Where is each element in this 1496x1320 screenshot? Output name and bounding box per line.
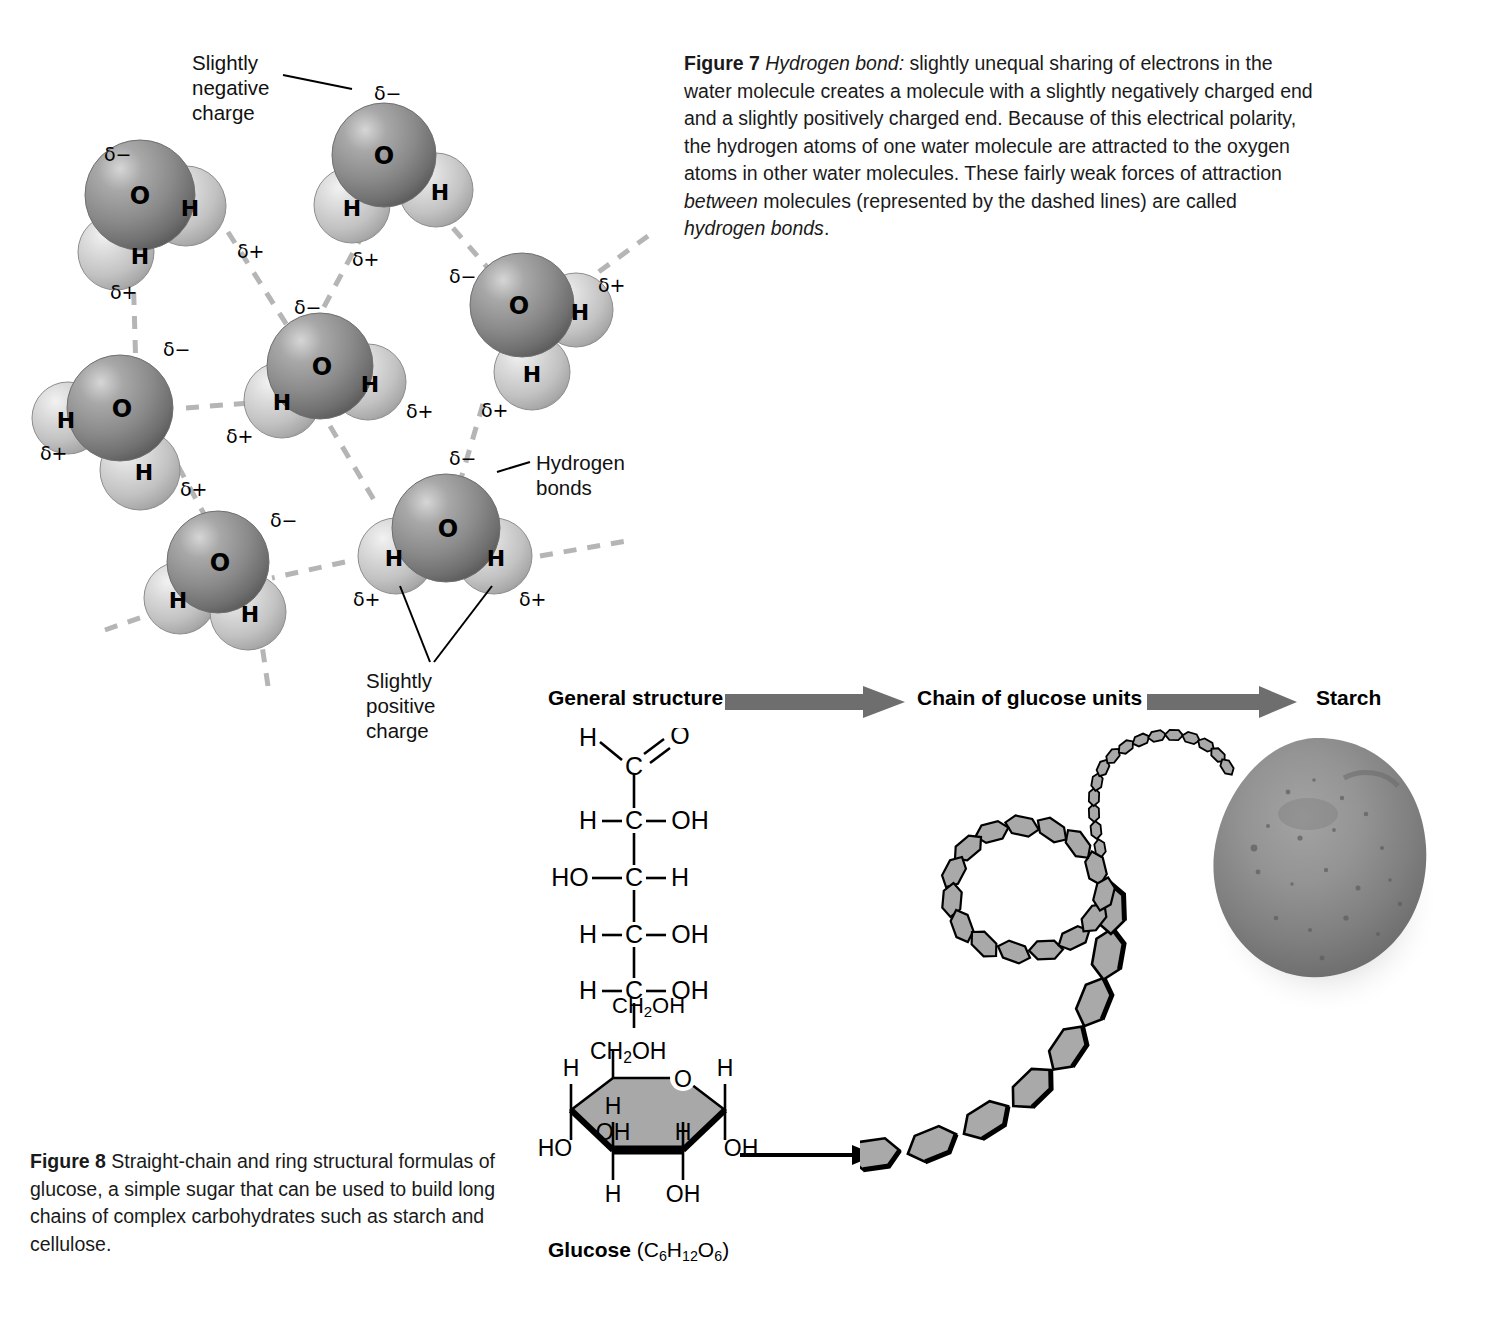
fischer-label-HO: HO [551,863,589,891]
atom-label-H: H [131,244,149,269]
charge-label-positive: δ+ [598,274,626,296]
figure7-term: Hydrogen bond: [765,52,904,74]
atom-label-O: O [374,142,394,170]
atom-label-H: H [343,196,361,221]
charge-label-positive: δ+ [180,478,208,500]
atom-label-H: H [487,546,505,571]
atom-label-O: O [130,182,150,210]
charge-label-negative: δ− [374,82,402,104]
water-molecule-1: O H H [78,140,226,290]
haworth-label-H: H [717,1055,734,1081]
fischer-label-C: C [625,752,643,780]
glucose-caption: Glucose (C6H12O6) [548,1238,729,1264]
callout-slightly-positive-charge: Slightly positive charge [366,668,436,743]
atom-label-H: H [431,180,449,205]
figure7-italic-between: between [684,190,758,212]
charge-label-negative: δ− [270,509,298,531]
water-molecule-5: O H H [244,313,406,438]
fischer-label-C: C [625,920,643,948]
heading-starch: Starch [1316,686,1381,710]
figure7-body-3: . [824,217,829,239]
charge-label-positive: δ+ [352,248,380,270]
charge-label-positive: δ+ [406,400,434,422]
fischer-label-C: C [625,863,643,891]
haworth-label-H: H [605,1093,622,1119]
charge-label-positive: δ+ [110,281,138,303]
atom-label-H: H [571,300,589,325]
straight-chain-glucose-structure: H O C H C OH HO C H H C OH H C OH [540,728,750,1028]
charge-label-positive: δ+ [237,240,265,262]
fischer-label-OH: OH [671,806,709,834]
water-molecule-7: O H H [358,474,532,594]
heading-general-structure: General structure [548,686,723,710]
atom-label-H: H [181,196,199,221]
charge-label-positive: δ+ [40,442,68,464]
figure8-caption: Figure 8 Straight-chain and ring structu… [30,1148,512,1258]
glucose-formula: (C6H12O6) [631,1238,729,1261]
charge-label-negative: δ− [449,265,477,287]
figure7-label: Figure 7 [684,52,760,74]
atom-label-H: H [135,460,153,485]
charge-label-positive: δ+ [519,588,547,610]
atom-label-O: O [210,549,230,577]
charge-label-positive: δ+ [481,399,509,421]
haworth-ring-oxygen: O [674,1066,692,1092]
callout-slightly-negative-charge: Slightly negative charge [192,50,270,125]
atom-label-H: H [57,408,75,433]
figure7-caption: Figure 7 Hydrogen bond: slightly unequal… [684,50,1314,243]
water-molecule-2: O H H [314,103,473,243]
haworth-label-OH: OH [596,1119,631,1145]
atom-label-O: O [509,292,529,320]
fischer-label-H: H [671,863,689,891]
block-arrow-2 [1147,685,1297,719]
glucose-name: Glucose [548,1238,631,1261]
potato-blemish [1278,798,1338,830]
charge-label-negative: δ− [294,296,322,318]
atom-label-H: H [385,546,403,571]
atom-label-H: H [361,372,379,397]
chain-units-coil [938,813,1117,966]
atom-label-O: O [112,395,132,423]
potato-photo [1196,722,1436,1022]
haworth-label-H: H [675,1119,692,1145]
atom-label-H: H [523,362,541,387]
glucose-hexagon [571,1078,725,1150]
fischer-label-H: H [579,806,597,834]
charge-label-negative: δ− [104,143,132,165]
figure8-label: Figure 8 [30,1150,106,1172]
haworth-label-H: H [563,1055,580,1081]
atom-label-H: H [241,602,259,627]
fischer-label-C: C [625,806,643,834]
figure-page: Figure 7 Hydrogen bond: slightly unequal… [0,0,1496,1320]
figure7-body-2: molecules (represented by the dashed lin… [758,190,1237,212]
atom-label-H: H [273,390,291,415]
water-molecule-4: O H H [32,355,180,510]
block-arrow-1 [725,685,905,719]
fischer-label-H: H [579,976,597,1004]
water-molecule-3: O H H [470,253,613,410]
haworth-label-H: H [605,1181,622,1207]
atom-label-O: O [438,515,458,543]
fischer-label-OH: OH [671,920,709,948]
ring-to-chain-arrow [740,1140,880,1170]
callout-hydrogen-bonds: Hydrogen bonds [536,450,625,500]
fischer-label-O: O [670,728,689,749]
water-molecule-6: O H H [144,511,286,650]
fischer-label-H: H [579,920,597,948]
heading-chain-of-glucose-units: Chain of glucose units [917,686,1142,710]
fischer-label-H: H [579,728,597,751]
charge-label-positive: δ+ [226,425,254,447]
atom-label-O: O [312,353,332,381]
charge-label-positive: δ+ [353,588,381,610]
fischer-terminal-ch2oh: CH2OH [612,993,685,1020]
atom-label-H: H [169,588,187,613]
charge-label-negative: δ− [163,338,191,360]
figure7-italic-hydrogen-bonds: hydrogen bonds [684,217,824,239]
water-molecule-diagram: O H H O H H O H H O H H [0,0,680,720]
charge-label-negative: δ− [449,447,477,469]
haworth-top-ch2oh: CH2OH [590,1038,666,1067]
haworth-label-OH: OH [666,1181,701,1207]
haworth-label-HO: HO [538,1135,573,1161]
potato-body [1213,738,1426,977]
